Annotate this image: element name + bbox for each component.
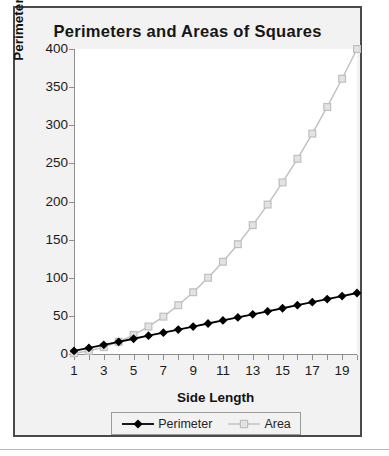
y-tick-label: 400 bbox=[8, 41, 68, 56]
data-point-perimeter bbox=[159, 328, 168, 337]
data-point-area bbox=[175, 302, 182, 309]
x-axis-title: Side Length bbox=[74, 390, 357, 405]
chart-legend: PerimeterArea bbox=[111, 412, 301, 435]
x-tick-mark bbox=[327, 355, 328, 360]
y-tick-label: 0 bbox=[8, 346, 68, 361]
data-point-perimeter bbox=[323, 295, 332, 304]
data-point-area bbox=[205, 274, 212, 281]
x-tick-mark bbox=[208, 355, 209, 360]
y-tick-label: 250 bbox=[8, 155, 68, 170]
x-tick-mark bbox=[223, 355, 224, 360]
data-point-perimeter bbox=[248, 310, 257, 319]
series-layer bbox=[74, 49, 357, 355]
x-tick-mark bbox=[163, 355, 164, 360]
legend-label: Perimeter bbox=[158, 417, 212, 431]
x-tick-mark bbox=[253, 355, 254, 360]
legend-swatch-square-icon bbox=[227, 417, 261, 431]
data-point-area bbox=[354, 46, 361, 53]
data-point-area bbox=[145, 323, 152, 330]
page-bottom-rule bbox=[0, 449, 389, 450]
data-point-area bbox=[190, 289, 197, 296]
x-tick-label: 9 bbox=[178, 363, 208, 378]
plot-area: 050100150200250300350400 135791113151719 bbox=[74, 49, 357, 361]
data-point-perimeter bbox=[353, 289, 362, 298]
data-point-area bbox=[220, 258, 227, 265]
y-tick-label: 100 bbox=[8, 270, 68, 285]
data-point-perimeter bbox=[233, 313, 242, 322]
data-point-area bbox=[309, 130, 316, 137]
x-tick-mark bbox=[89, 355, 90, 360]
y-tick-label: 200 bbox=[8, 194, 68, 209]
y-tick-label: 300 bbox=[8, 117, 68, 132]
x-tick-label: 1 bbox=[59, 363, 89, 378]
x-tick-mark bbox=[297, 355, 298, 360]
data-point-area bbox=[234, 241, 241, 248]
x-tick-label: 19 bbox=[327, 363, 357, 378]
chart-title: Perimeters and Areas of Squares bbox=[15, 22, 360, 41]
data-point-perimeter bbox=[144, 331, 153, 340]
y-tick-label: 150 bbox=[8, 232, 68, 247]
data-point-perimeter bbox=[263, 307, 272, 316]
data-point-area bbox=[160, 313, 167, 320]
x-tick-mark bbox=[148, 355, 149, 360]
legend-entry-perimeter[interactable]: Perimeter bbox=[121, 417, 212, 431]
x-tick-mark bbox=[283, 355, 284, 360]
data-point-perimeter bbox=[293, 301, 302, 310]
data-point-area bbox=[264, 201, 271, 208]
data-point-area bbox=[339, 75, 346, 82]
x-tick-mark bbox=[357, 355, 358, 360]
x-tick-label: 3 bbox=[89, 363, 119, 378]
data-point-area bbox=[279, 179, 286, 186]
data-point-perimeter bbox=[189, 322, 198, 331]
data-point-perimeter bbox=[308, 298, 317, 307]
x-tick-label: 11 bbox=[208, 363, 238, 378]
x-tick-mark bbox=[268, 355, 269, 360]
data-point-area bbox=[294, 155, 301, 162]
data-point-perimeter bbox=[278, 304, 287, 313]
x-tick-mark bbox=[119, 355, 120, 360]
x-tick-label: 17 bbox=[297, 363, 327, 378]
x-tick-mark bbox=[104, 355, 105, 360]
x-tick-label: 5 bbox=[119, 363, 149, 378]
data-point-perimeter bbox=[174, 325, 183, 334]
x-tick-mark bbox=[134, 355, 135, 360]
y-tick-label: 350 bbox=[8, 79, 68, 94]
data-point-perimeter bbox=[338, 292, 347, 301]
legend-label: Area bbox=[264, 417, 290, 431]
x-tick-mark bbox=[312, 355, 313, 360]
x-tick-mark bbox=[193, 355, 194, 360]
x-tick-label: 7 bbox=[148, 363, 178, 378]
x-tick-label: 13 bbox=[238, 363, 268, 378]
data-point-area bbox=[324, 104, 331, 111]
y-tick-label: 50 bbox=[8, 308, 68, 323]
x-tick-mark bbox=[342, 355, 343, 360]
data-point-perimeter bbox=[219, 316, 228, 325]
x-tick-mark bbox=[178, 355, 179, 360]
data-point-perimeter bbox=[204, 319, 213, 328]
chart-frame: Perimeters and Areas of Squares Perimete… bbox=[13, 6, 362, 437]
y-axis-title: Perimeter (Units) or Area (Square Units) bbox=[11, 0, 26, 68]
legend-swatch-diamond-icon bbox=[121, 417, 155, 431]
series-line-area bbox=[74, 49, 357, 353]
x-tick-mark bbox=[238, 355, 239, 360]
legend-entry-area[interactable]: Area bbox=[227, 417, 290, 431]
x-tick-label: 15 bbox=[268, 363, 298, 378]
data-point-area bbox=[249, 222, 256, 229]
